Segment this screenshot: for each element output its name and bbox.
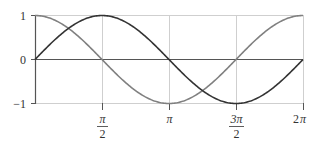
sine-cosine-chart: 1 0 −1 π 2 π 3π 2 2 π <box>0 0 327 143</box>
y-tick-label-minus1: −1 <box>13 97 26 111</box>
x-tick-label-pi-half: π 2 <box>97 112 108 141</box>
x-tick-label-pi-half-numerator: π <box>99 112 106 126</box>
x-tick-label-3pi-half-numerator: 3π <box>229 112 243 126</box>
x-tick-label-3pi-half: 3π 2 <box>229 112 244 141</box>
y-tick-label-0: 0 <box>20 53 26 67</box>
x-tick-label-2pi-symbol: π <box>300 112 307 126</box>
x-tick-label-2pi-coefficient: 2 <box>293 112 299 126</box>
x-tick-label-pi-half-denominator: 2 <box>100 127 106 141</box>
y-tick-label-1: 1 <box>20 9 26 23</box>
x-tick-label-3pi-half-denominator: 2 <box>234 127 240 141</box>
x-tick-label-pi: π <box>166 112 173 126</box>
x-tick-label-2pi: 2 π <box>293 112 307 126</box>
